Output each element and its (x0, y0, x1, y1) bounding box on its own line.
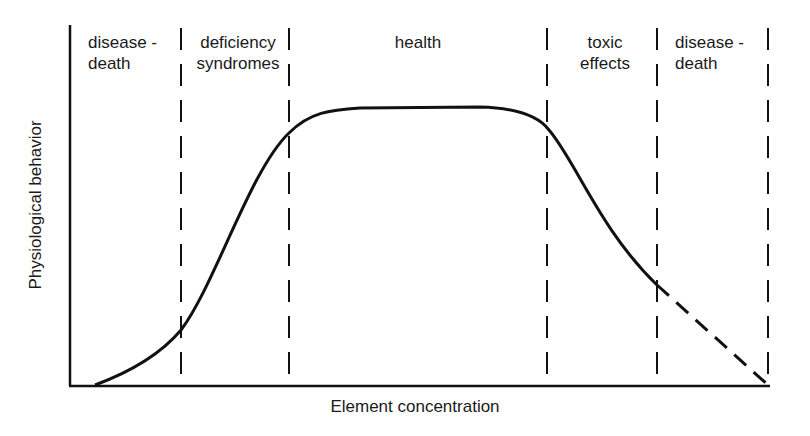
zone-label-line: effects (570, 53, 640, 74)
zone-label-deficiency-syndromes: deficiency syndromes (192, 32, 284, 74)
zone-label-line: death (88, 53, 157, 74)
zone-label-disease-death-left: disease - death (88, 32, 157, 74)
zone-label-line: death (675, 53, 744, 74)
zone-label-toxic-effects: toxic effects (570, 32, 640, 74)
zone-label-line: disease - (88, 32, 157, 53)
zone-label-health: health (289, 32, 547, 53)
zone-label-line: disease - (675, 32, 744, 53)
response-curve-solid (95, 107, 657, 385)
response-curve-dashed (657, 285, 768, 385)
zone-label-line: deficiency (192, 32, 284, 53)
zone-label-disease-death-right: disease - death (675, 32, 744, 74)
zone-boundaries (181, 28, 768, 386)
zone-label-line: health (289, 32, 547, 53)
x-axis-label: Element concentration (0, 397, 810, 417)
y-axis-label: Physiological behavior (26, 120, 46, 289)
zone-label-line: toxic (570, 32, 640, 53)
zone-label-line: syndromes (192, 53, 284, 74)
